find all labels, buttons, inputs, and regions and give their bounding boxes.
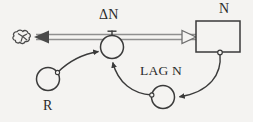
auxiliary-label-r: R xyxy=(43,99,52,113)
connector-r-to-valve xyxy=(55,52,98,75)
connector-r-to-valve-path xyxy=(58,52,99,73)
auxiliary-lag-n xyxy=(152,86,175,109)
cloud-icon xyxy=(13,30,31,43)
flow-valve-circle xyxy=(101,36,124,59)
stock-label-n: N xyxy=(219,2,229,16)
connector-lag-n-origin-dot xyxy=(150,93,154,97)
connector-stock-n-origin-dot xyxy=(218,50,223,55)
stock-box-n-rect xyxy=(196,21,240,52)
flow-label-delta-n: ΔN xyxy=(99,8,119,22)
auxiliary-lag-n-circle xyxy=(152,86,175,109)
stock-and-flow-diagram: ΔN N R LAG N xyxy=(0,0,253,122)
flow-arrowhead-solid-left xyxy=(34,31,49,44)
flow-arrowhead-hollow-right xyxy=(182,31,196,44)
connector-stock-n-to-lag-n-path xyxy=(180,54,221,97)
auxiliary-label-lag-n: LAG N xyxy=(140,64,182,78)
stock-box-n xyxy=(196,21,240,52)
connector-r-origin-dot xyxy=(55,70,59,74)
diagram-canvas xyxy=(0,0,253,122)
connector-stock-n-to-lag-n xyxy=(180,50,223,97)
